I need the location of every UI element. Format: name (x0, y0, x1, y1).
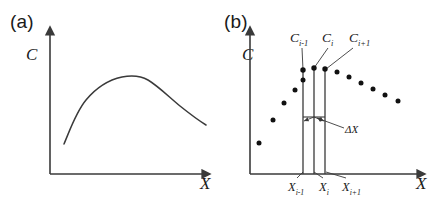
leader-line-x-i-minus-1 (297, 172, 303, 178)
panel-b-plot (218, 0, 436, 212)
data-point (335, 70, 340, 75)
panel-a: (a) C X (0, 0, 218, 212)
data-point (257, 141, 262, 146)
leader-line-c-i-plus-1 (326, 48, 353, 69)
panel-a-curve (64, 76, 206, 144)
leader-line-x-i (314, 172, 323, 178)
spacing-arrow-left (304, 117, 314, 121)
data-point (301, 78, 306, 83)
leader-line-c-i (314, 48, 328, 68)
leader-line-c-i-minus-1 (302, 48, 303, 70)
leader-line-x-i-plus-1 (326, 172, 346, 178)
data-point-highlighted (300, 67, 305, 72)
figure-container: (a) C X (b) C X Ci-1 Ci (0, 0, 436, 212)
data-point (396, 99, 401, 104)
panel-b: (b) C X Ci-1 Ci Ci+1 Xi-1 Xi Xi+1 ΔX (218, 0, 436, 212)
data-point (282, 101, 287, 106)
data-point-highlighted (322, 66, 327, 71)
leader-line-delta-x (317, 118, 344, 128)
data-point (347, 75, 352, 80)
data-point (293, 88, 298, 93)
panel-a-plot (0, 0, 218, 212)
panel-b-data-points (257, 65, 401, 145)
data-point-highlighted (311, 65, 316, 70)
data-point (359, 81, 364, 86)
data-point (271, 118, 276, 123)
data-point (383, 93, 388, 98)
data-point (371, 87, 376, 92)
